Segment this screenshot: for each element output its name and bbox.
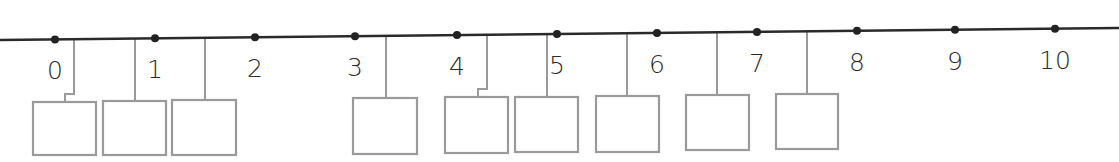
tick-dot-5 <box>553 30 561 38</box>
tick-label-2: 2 <box>247 56 263 81</box>
tick-label-3: 3 <box>347 55 363 80</box>
answer-box-8[interactable] <box>686 95 749 150</box>
tick-label-5: 5 <box>549 53 565 78</box>
connector-line-1 <box>65 39 74 102</box>
tick-dot-6 <box>653 29 661 37</box>
answer-box-3[interactable] <box>172 100 236 155</box>
tick-dot-0 <box>51 35 59 43</box>
answer-box-7[interactable] <box>596 96 659 152</box>
answer-box-9[interactable] <box>776 94 838 149</box>
tick-label-0: 0 <box>47 58 63 83</box>
tick-dot-2 <box>251 33 259 41</box>
tick-dot-10 <box>1051 25 1059 33</box>
tick-dot-1 <box>151 34 159 42</box>
answer-box-4[interactable] <box>353 98 417 154</box>
answer-box-5[interactable] <box>445 97 508 153</box>
answer-box-6[interactable] <box>515 97 578 152</box>
answer-box-2[interactable] <box>103 101 166 155</box>
tick-label-9: 9 <box>947 49 963 74</box>
answer-box-1[interactable] <box>33 102 96 155</box>
tick-label-1: 1 <box>147 57 163 82</box>
tick-label-7: 7 <box>749 51 765 76</box>
tick-label-4: 4 <box>449 54 465 79</box>
tick-dot-4 <box>453 31 461 39</box>
tick-label-10: 10 <box>1039 48 1071 73</box>
tick-dot-7 <box>753 28 761 36</box>
connector-line-5 <box>478 35 487 97</box>
number-line-diagram <box>0 0 1119 162</box>
tick-dot-3 <box>351 32 359 40</box>
tick-label-6: 6 <box>649 52 665 77</box>
tick-dot-9 <box>951 26 959 34</box>
tick-dot-8 <box>853 27 861 35</box>
tick-label-8: 8 <box>849 50 865 75</box>
